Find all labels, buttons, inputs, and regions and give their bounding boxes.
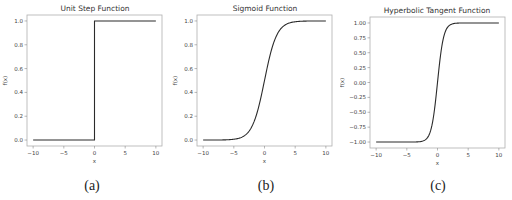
y-tick-label: 0.4 bbox=[184, 89, 193, 95]
x-tick-label: 5 bbox=[466, 152, 470, 158]
series-line bbox=[376, 23, 499, 142]
chart-title: Unit Step Function bbox=[60, 4, 129, 13]
x-axis-label: x bbox=[263, 158, 267, 164]
x-tick-label: −5 bbox=[230, 150, 239, 156]
x-tick-label: 5 bbox=[293, 150, 297, 156]
y-tick-label: 1.0 bbox=[14, 18, 23, 24]
chart-unit-step: Unit Step Function0.00.20.40.60.81.0−10−… bbox=[0, 0, 170, 200]
y-tick-label: −1.00 bbox=[349, 139, 366, 145]
x-tick-label: 5 bbox=[123, 150, 127, 156]
chart-panel-tanh: Hyperbolic Tangent Function−1.00−0.75−0.… bbox=[340, 0, 512, 200]
y-axis-label: f(x) bbox=[2, 76, 8, 85]
y-tick-label: 0.6 bbox=[184, 66, 193, 72]
y-tick-label: 0.2 bbox=[14, 113, 23, 119]
y-axis-label: f(x) bbox=[340, 78, 345, 87]
x-tick-label: 0 bbox=[263, 150, 267, 156]
chart-title: Hyperbolic Tangent Function bbox=[384, 6, 491, 15]
caption-b: (b) bbox=[258, 178, 274, 194]
chart-panel-sigmoid: Sigmoid Function0.00.20.40.60.81.0−10−50… bbox=[170, 0, 340, 200]
y-tick-label: 0.0 bbox=[14, 137, 23, 143]
y-tick-label: 0.2 bbox=[184, 113, 193, 119]
caption-c: (c) bbox=[430, 178, 446, 194]
y-tick-label: 0.6 bbox=[14, 66, 23, 72]
y-tick-label: 0.25 bbox=[354, 65, 367, 71]
y-tick-label: 0.4 bbox=[14, 89, 23, 95]
x-tick-label: 0 bbox=[93, 150, 97, 156]
y-tick-label: 1.0 bbox=[184, 18, 193, 24]
y-axis-label: f(x) bbox=[172, 76, 178, 85]
x-axis-label: x bbox=[93, 158, 97, 164]
y-tick-label: 0.50 bbox=[354, 50, 367, 56]
y-tick-label: 0.0 bbox=[184, 137, 193, 143]
x-tick-label: −5 bbox=[403, 152, 412, 158]
chart-title: Sigmoid Function bbox=[233, 4, 298, 13]
y-tick-label: 1.00 bbox=[354, 20, 367, 26]
y-tick-label: 0.00 bbox=[354, 80, 367, 86]
x-tick-label: −10 bbox=[27, 150, 39, 156]
chart-tanh: Hyperbolic Tangent Function−1.00−0.75−0.… bbox=[340, 0, 512, 200]
y-tick-label: 0.8 bbox=[14, 42, 23, 48]
x-tick-label: −10 bbox=[370, 152, 382, 158]
x-tick-label: −5 bbox=[60, 150, 69, 156]
y-tick-label: −0.75 bbox=[349, 124, 366, 130]
series-line bbox=[33, 21, 156, 140]
y-tick-label: −0.50 bbox=[349, 109, 366, 115]
x-tick-label: −10 bbox=[197, 150, 209, 156]
chart-panel-unit-step: Unit Step Function0.00.20.40.60.81.0−10−… bbox=[0, 0, 170, 200]
y-tick-label: 0.8 bbox=[184, 42, 193, 48]
caption-a: (a) bbox=[84, 178, 100, 194]
y-tick-label: −0.25 bbox=[349, 94, 366, 100]
series-line bbox=[203, 21, 326, 140]
x-tick-label: 10 bbox=[322, 150, 329, 156]
chart-sigmoid: Sigmoid Function0.00.20.40.60.81.0−10−50… bbox=[170, 0, 340, 200]
y-tick-label: 0.75 bbox=[354, 35, 367, 41]
x-tick-label: 10 bbox=[152, 150, 159, 156]
x-axis-label: x bbox=[436, 160, 440, 166]
x-tick-label: 10 bbox=[495, 152, 502, 158]
x-tick-label: 0 bbox=[436, 152, 440, 158]
